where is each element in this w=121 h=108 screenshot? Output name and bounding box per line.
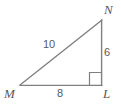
geometry-figure: N M L 10 8 6 [0, 0, 121, 108]
right-angle-marker-icon [90, 73, 102, 86]
vertex-label-m: M [4, 87, 15, 100]
side-length-label-base: 8 [57, 88, 63, 99]
vertex-label-n: N [104, 3, 113, 16]
side-length-label-vertical: 6 [104, 47, 110, 58]
vertex-label-l: L [103, 87, 110, 100]
side-length-label-hypotenuse: 10 [43, 39, 55, 50]
